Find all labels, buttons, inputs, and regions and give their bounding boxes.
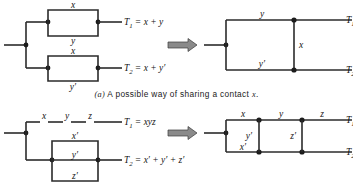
b-right-contact-label-z: z: [319, 109, 324, 119]
double-right-arrow-icon-b: [168, 127, 197, 140]
b-right-bridge-label-yprime: y′: [245, 131, 253, 141]
contact-label-y-upper: y: [70, 36, 76, 46]
panel-a-right-network: y y′ x T1 T2: [204, 9, 353, 77]
contact-label-x-upper: x: [70, 0, 76, 10]
b-right-contact-label-y: y: [278, 109, 284, 119]
right-contact-label-y: y: [259, 9, 265, 19]
b-contact-label-xprime: x′: [71, 131, 79, 141]
right-output-label-t1: T1: [346, 15, 353, 27]
panel-a-left-network: x y x y′ T1=x + y T2=x + y′: [4, 0, 166, 92]
double-right-arrow-icon: [168, 39, 197, 52]
b-output-subscript-t2: 2: [129, 160, 133, 167]
lower-branch-contact-yprime-path: [48, 68, 98, 81]
b-right-contact-label-xprime: x′: [239, 142, 247, 152]
equals-sign-t1: =: [135, 17, 141, 27]
right-contact-label-yprime: y′: [258, 59, 266, 69]
b-contact-label-y: y: [64, 111, 70, 121]
expression-t1: x + y: [143, 17, 164, 27]
b-output-subscript-t1: 1: [129, 122, 132, 129]
implication-arrow-panel-b: [168, 127, 197, 140]
panel-b-left-network: x y z x′ y′ z′ T1=xyz T2=x′ + y′ + z′: [4, 111, 185, 181]
equals-sign-t2: =: [135, 63, 141, 73]
output-subscript-t2: 2: [129, 68, 133, 75]
b-expression-t2: x′ + y′ + z′: [143, 155, 186, 165]
b-output-expression-t2: T2=x′ + y′ + z′: [124, 155, 185, 167]
lower-branch-contact-x-path: [48, 56, 98, 68]
b-right-contact-label-x: x: [240, 109, 246, 119]
b-right-output-label-t2: T2: [346, 147, 353, 159]
switching-circuit-figure: x y x y′ T1=x + y T2=x + y′: [0, 0, 353, 195]
contact-label-x-lower: x: [70, 46, 76, 56]
output-subscript-t1: 1: [129, 22, 132, 29]
bridge-bottom-node: [291, 67, 296, 72]
bridge-top-node: [291, 17, 296, 22]
junction-node: [24, 43, 29, 48]
b-contact-label-x: x: [41, 111, 47, 121]
b-contact-label-zprime: z′: [71, 171, 79, 181]
caption-text: A possible way of sharing a contact: [107, 89, 249, 99]
upper-branch-contact-x-path: [48, 10, 98, 22]
b-expression-t1: xyz: [143, 117, 156, 127]
caption-tag: (a): [94, 90, 105, 99]
b-equals-sign-t2: =: [135, 155, 141, 165]
panel-a-caption: (a) A possible way of sharing a contact …: [0, 89, 353, 99]
b-output-expression-t1: T1=xyz: [124, 117, 156, 129]
output-expression-t1: T1=x + y: [124, 17, 164, 29]
upper-branch-contact-y-path: [48, 22, 98, 36]
caption-period: .: [256, 89, 259, 99]
right-shared-contact-label-x: x: [298, 40, 304, 50]
expression-t2: x + y′: [143, 63, 167, 73]
output-expression-t2: T2=x + y′: [124, 63, 166, 75]
implication-arrow-panel-a: [168, 39, 197, 52]
b-contact-label-z: z: [87, 111, 92, 121]
panel-b-right-network: x y z x′ y′ z′ T1 T2: [204, 109, 353, 159]
b-contact-label-yprime: y′: [71, 150, 79, 160]
b-equals-sign-t1: =: [135, 117, 141, 127]
right-output-label-t2: T2: [346, 65, 353, 77]
b-right-bridge-label-zprime: z′: [289, 131, 297, 141]
b-right-output-label-t1: T1: [346, 115, 353, 127]
